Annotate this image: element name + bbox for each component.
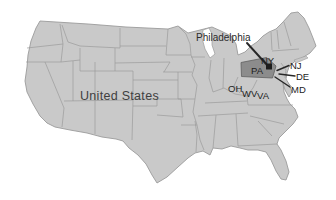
country-label: United States bbox=[80, 89, 159, 103]
us-map-figure: United States Philadelphia NY PA NJ DE M… bbox=[0, 0, 336, 200]
state-label-de: DE bbox=[296, 71, 309, 82]
state-label-va: VA bbox=[257, 90, 270, 101]
state-label-ny: NY bbox=[261, 55, 275, 66]
state-label-wv: WV bbox=[242, 88, 258, 99]
state-label-pa: PA bbox=[251, 65, 264, 76]
state-label-nj: NJ bbox=[290, 60, 302, 71]
state-label-md: MD bbox=[291, 84, 306, 95]
us-map-svg: United States Philadelphia NY PA NJ DE M… bbox=[0, 0, 336, 200]
state-label-oh: OH bbox=[228, 83, 242, 94]
philadelphia-label: Philadelphia bbox=[196, 32, 251, 43]
country-outline bbox=[25, 12, 316, 183]
